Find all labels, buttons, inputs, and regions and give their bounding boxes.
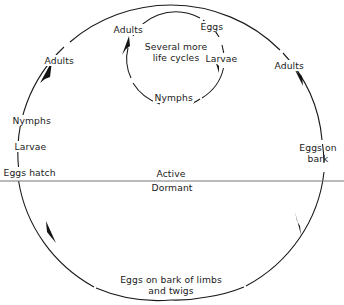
- label-overwinter-line1: Eggs on bark of limbs: [99, 275, 243, 286]
- label-outer-larvae: Larvae: [13, 142, 48, 153]
- arrow-outer-lower-left: [46, 221, 56, 243]
- label-outer-eggs-on-bark: Eggs on bark: [296, 143, 340, 164]
- label-outer-nymphs: Nymphs: [11, 116, 52, 127]
- outer-arc-bottom: [171, 297, 207, 300]
- outer-arc-lower-right: [246, 172, 324, 286]
- life-cycle-diagram: Adults Nymphs Larvae Eggs hatch Adults E…: [0, 0, 344, 305]
- label-overwinter-line2: and twigs: [99, 286, 243, 297]
- label-several-more-life-cycles: Several more life cycles: [135, 42, 217, 63]
- label-eggs-on-bark-line1: Eggs on: [296, 143, 340, 154]
- label-inner-adults: Adults: [112, 25, 144, 36]
- inner-arc-left: [127, 48, 131, 78]
- arrow-outer-lower-right: [295, 212, 301, 235]
- label-inner-nymphs: Nymphs: [153, 93, 194, 104]
- outer-arc-lower-left: [19, 181, 94, 287]
- label-dormant: Dormant: [150, 183, 194, 194]
- label-outer-adults-left: Adults: [43, 56, 75, 67]
- label-inner-eggs: Eggs: [199, 22, 225, 33]
- inner-arc-lower-right: [202, 68, 224, 98]
- label-center-line2: life cycles: [135, 53, 217, 64]
- label-outer-adults-right: Adults: [273, 61, 305, 72]
- label-overwintering-eggs: Eggs on bark of limbs and twigs: [99, 275, 243, 296]
- label-eggs-on-bark-line2: bark: [296, 154, 340, 165]
- label-outer-eggs-hatch: Eggs hatch: [2, 168, 57, 179]
- inner-arc-top: [158, 12, 200, 18]
- arrow-inner-left: [122, 36, 130, 55]
- label-active: Active: [155, 169, 187, 180]
- label-center-line1: Several more: [135, 42, 217, 53]
